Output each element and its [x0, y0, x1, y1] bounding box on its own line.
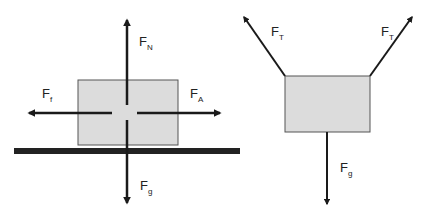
normal-force-label: FN: [139, 34, 153, 52]
right-diagram: FT FT Fg: [244, 17, 412, 204]
free-body-diagrams: FN Ff FA Fg FT FT Fg: [0, 0, 430, 220]
tension-left-label: FT: [271, 24, 284, 42]
hanging-block: [285, 76, 370, 132]
tension-right-label: FT: [381, 24, 394, 42]
gravity-force-label-right: Fg: [340, 160, 352, 178]
gravity-force-label: Fg: [140, 178, 152, 196]
tension-right-arrow: [370, 17, 412, 76]
left-diagram: FN Ff FA Fg: [14, 20, 240, 203]
applied-force-label: FA: [190, 86, 204, 104]
friction-force-label: Ff: [42, 86, 53, 104]
